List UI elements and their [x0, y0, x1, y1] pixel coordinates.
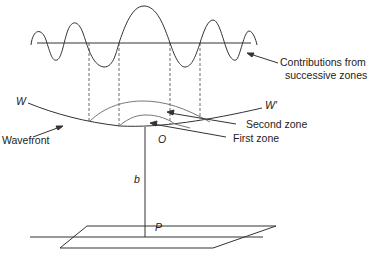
projection-lines	[89, 43, 200, 126]
contributions-leader	[250, 54, 278, 63]
second-zone-leader	[170, 113, 236, 124]
contribution-wave	[31, 6, 257, 67]
label-contributions-2: successive zones	[285, 69, 367, 81]
label-O: O	[158, 133, 166, 145]
label-P: P	[155, 221, 162, 233]
label-wavefront: Wavefront	[2, 134, 49, 146]
observation-plane	[60, 226, 276, 248]
arrowhead-icon	[167, 110, 174, 115]
arrowhead-icon	[247, 53, 254, 57]
arrowhead-icon	[56, 126, 63, 130]
label-contributions-1: Contributions from	[280, 56, 366, 68]
second-zone-arc	[89, 101, 210, 122]
label-b: b	[134, 173, 140, 185]
label-W: W	[16, 95, 26, 107]
label-first-zone: First zone	[233, 132, 279, 144]
label-W-prime: W′	[265, 99, 277, 111]
fresnel-zone-diagram	[0, 0, 376, 256]
label-second-zone: Second zone	[246, 118, 307, 130]
